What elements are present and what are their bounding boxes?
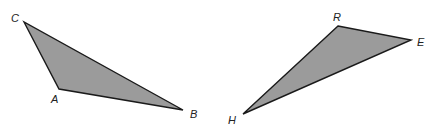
triangle-reh bbox=[243, 26, 411, 114]
vertex-label-h: H bbox=[228, 114, 236, 126]
vertex-label-c: C bbox=[11, 12, 19, 24]
vertex-label-r: R bbox=[333, 11, 341, 23]
vertex-label-e: E bbox=[417, 36, 425, 48]
triangle-cab bbox=[24, 22, 183, 110]
vertex-label-a: A bbox=[50, 93, 58, 105]
triangle-diagram: C A B R E H bbox=[0, 0, 437, 131]
vertex-label-b: B bbox=[190, 108, 197, 120]
